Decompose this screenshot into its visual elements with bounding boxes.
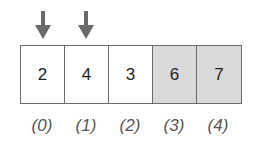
array-cell-shaded: 7 (197, 46, 241, 103)
index-label: (3) (152, 116, 196, 136)
index-label: (4) (196, 116, 240, 136)
index-label: (0) (20, 116, 64, 136)
down-arrow-icon (35, 11, 51, 39)
index-label: (1) (64, 116, 108, 136)
array-row: 2 4 3 6 7 (20, 45, 242, 104)
array-cell: 3 (109, 46, 153, 103)
down-arrow-icon (78, 11, 94, 39)
array-cell-shaded: 6 (153, 46, 197, 103)
index-label: (2) (108, 116, 152, 136)
array-cell: 4 (65, 46, 109, 103)
index-labels: (0) (1) (2) (3) (4) (20, 116, 240, 136)
array-cell: 2 (21, 46, 65, 103)
